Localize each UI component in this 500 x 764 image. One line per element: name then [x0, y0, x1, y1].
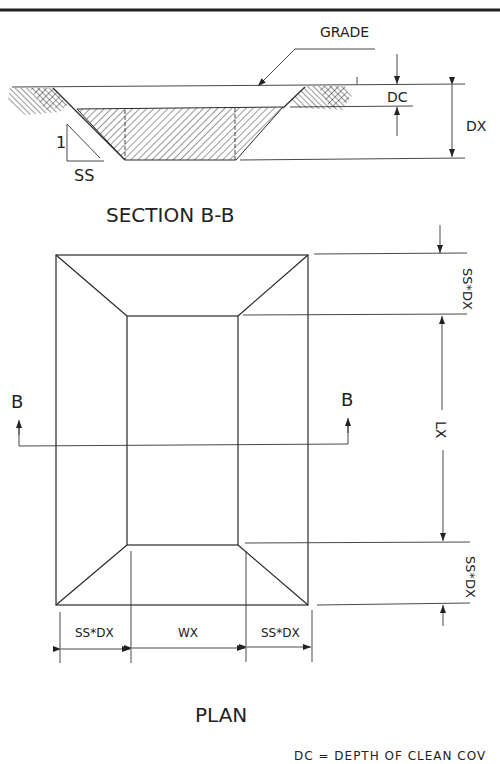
- plan-title: PLAN: [195, 703, 247, 727]
- cut-marker-right: B: [341, 389, 353, 410]
- cut-marker-left: B: [11, 391, 23, 412]
- dim-bottom-left: SS*DX: [75, 626, 114, 640]
- dim-bottom-right: SS*DX: [463, 556, 478, 598]
- basin-bottom-outline: [127, 316, 238, 545]
- basin-fill: [77, 107, 283, 160]
- plan-view: B B SS*DX LX SS*DX SS*DX WX SS*DX: [11, 225, 478, 663]
- dim-top-right: SS*DX: [460, 268, 475, 310]
- dc-label: DC: [387, 89, 408, 105]
- dx-label: DX: [466, 118, 487, 134]
- slope-run-label: SS: [74, 166, 94, 185]
- note-text: DC = DEPTH OF CLEAN COV: [294, 749, 486, 763]
- dim-length: LX: [433, 421, 449, 439]
- section-title: SECTION B-B: [106, 203, 234, 227]
- slope-rise-label: 1: [56, 133, 66, 152]
- section-view: GRADE DC DX 1 SS: [8, 24, 487, 185]
- basin-outer-outline: [56, 255, 308, 605]
- grade-label: GRADE: [320, 24, 369, 40]
- dim-bottom-right-horizontal: SS*DX: [261, 626, 300, 640]
- drawing-canvas: GRADE DC DX 1 SS SECTION B-B B B: [0, 0, 500, 764]
- dim-width: WX: [178, 626, 198, 640]
